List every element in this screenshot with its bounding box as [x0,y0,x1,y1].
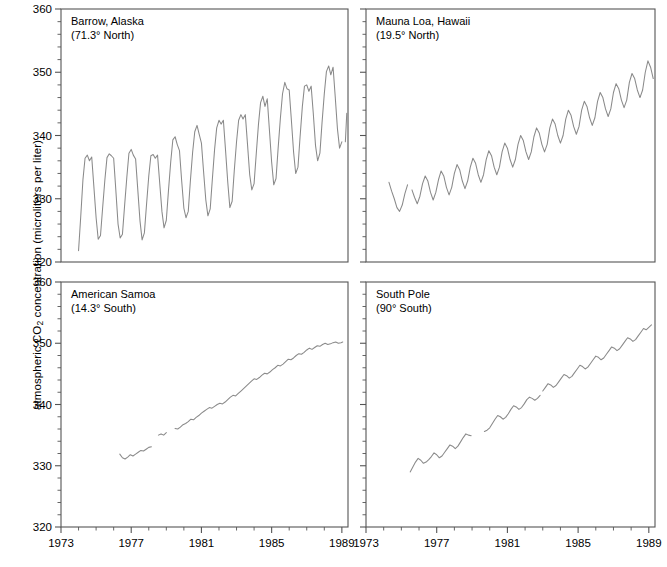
data-line-segment [412,61,653,204]
data-line-segment [158,433,166,435]
panel-title-south-pole: South Pole (90° South) [376,288,432,315]
data-line-segment [345,113,346,141]
panel-barrow: 320330340350360 [33,3,348,268]
data-line-segment [484,395,540,431]
panel-south_pole: 19731977198119851989 [353,282,661,549]
data-line-segment [79,66,342,251]
x-tick-label: 1973 [48,537,74,549]
panel-american_samoa: 32033034035036019731977198119851989 [33,276,355,549]
x-tick-label: 1973 [353,537,379,549]
x-tick-label: 1981 [189,537,215,549]
co2-figure: atmospheric CO2 concentration (microlite… [0,0,667,567]
panel-title-mauna-loa: Mauna Loa, Hawaii (19.5° North) [376,15,470,42]
y-tick-label: 360 [33,3,52,15]
data-line-segment [543,325,652,391]
data-series-mauna_loa [389,61,653,212]
panel-mauna_loa [360,9,655,262]
x-tick-label: 1977 [424,537,450,549]
panel-frame [366,9,655,262]
panel-title-american-samoa: American Samoa (14.3° South) [71,288,155,315]
y-axis-label-subscript: 2 [35,321,45,326]
y-axis-label: atmospheric CO2 concentration (microlite… [31,15,45,535]
y-axis-label-prefix: atmospheric CO [31,326,43,410]
data-line-segment [389,182,408,211]
data-series-barrow [79,66,347,251]
x-tick-label: 1989 [636,537,662,549]
data-series-american_samoa [120,342,343,459]
x-tick-label: 1977 [118,537,144,549]
panel-frame [61,9,348,262]
x-tick-label: 1985 [565,537,591,549]
x-tick-label: 1985 [259,537,285,549]
data-line-segment [410,434,471,472]
y-axis-label-suffix: concentration (microliters per liter) [31,140,43,321]
data-series-south_pole [410,325,651,472]
panel-frame [61,282,348,527]
data-line-segment [175,342,343,429]
x-tick-label: 1981 [495,537,521,549]
panel-title-barrow: Barrow, Alaska (71.3° North) [71,15,144,42]
data-line-segment [120,447,152,459]
panel-frame [366,282,655,527]
plot-canvas: 3203303403503603203303403503601973197719… [0,0,667,567]
x-tick-label: 1989 [329,537,355,549]
